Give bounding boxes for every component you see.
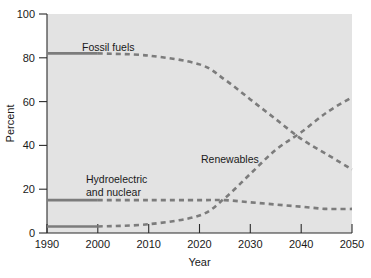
y-tick-label-40: 40: [23, 139, 35, 151]
y-tick-label-100: 100: [17, 8, 35, 20]
annotation-hydro-nuclear-line2: and nuclear: [86, 186, 141, 198]
y-tick-label-80: 80: [23, 52, 35, 64]
x-tick-label-1990: 1990: [35, 238, 59, 250]
annotation-hydro-nuclear-line1: Hydroelectric: [86, 173, 147, 185]
chart-container: 100 80 60 40 20 0 1990 2000 2010 2020 20…: [0, 0, 371, 278]
y-tick-label-60: 60: [23, 96, 35, 108]
y-axis-title: Percent: [4, 105, 16, 143]
x-tick-label-2040: 2040: [289, 238, 313, 250]
x-tick-label-2050: 2050: [340, 238, 364, 250]
energy-mix-line-chart: 100 80 60 40 20 0 1990 2000 2010 2020 20…: [0, 0, 371, 278]
y-axis: 100 80 60 40 20 0: [17, 8, 47, 239]
x-axis-title: Year: [188, 256, 211, 268]
x-tick-label-2030: 2030: [238, 238, 262, 250]
y-tick-label-20: 20: [23, 183, 35, 195]
x-tick-label-2020: 2020: [187, 238, 211, 250]
annotation-renewables: Renewables: [201, 153, 259, 165]
x-tick-label-2010: 2010: [136, 238, 160, 250]
annotation-fossil-fuels: Fossil fuels: [82, 41, 135, 53]
x-tick-label-2000: 2000: [86, 238, 110, 250]
